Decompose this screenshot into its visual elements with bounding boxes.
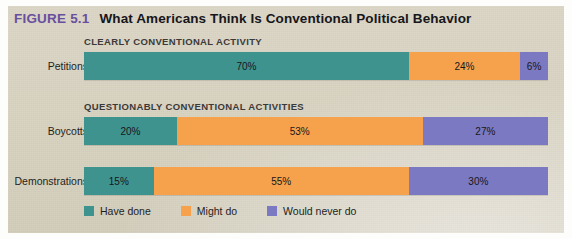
bar-value-label: 55% [271, 176, 291, 187]
stacked-bar-demonstrations: 15% 55% 30% [84, 167, 548, 195]
bar-segment-have-done[interactable]: 70% [84, 52, 409, 80]
table-row: Demonstrations 15% 55% 30% [0, 167, 556, 195]
legend-label: Might do [197, 205, 237, 217]
section-header-questionably-conventional: QUESTIONABLY CONVENTIONAL ACTIVITIES [84, 101, 304, 112]
legend-item-would-never-do[interactable]: Would never do [267, 205, 356, 217]
row-label-boycotts: Boycotts [48, 117, 88, 145]
legend-label: Would never do [283, 205, 356, 217]
legend-swatch-icon [181, 206, 191, 216]
bar-value-label: 15% [109, 176, 129, 187]
table-row: Petitions 70% 24% 6% [0, 52, 556, 80]
bar-segment-have-done[interactable]: 15% [84, 167, 154, 195]
bar-value-label: 6% [527, 61, 541, 72]
figure-container: FIGURE 5.1 What Americans Think Is Conve… [0, 0, 572, 239]
chart-legend: Have done Might do Would never do [84, 203, 356, 219]
bar-segment-might-do[interactable]: 55% [154, 167, 409, 195]
legend-item-might-do[interactable]: Might do [181, 205, 237, 217]
table-row: Boycotts 20% 53% 27% [0, 117, 556, 145]
bar-value-label: 53% [290, 126, 310, 137]
bar-segment-would-never-do[interactable]: 27% [423, 117, 548, 145]
row-label-petitions: Petitions [48, 52, 88, 80]
section-header-clearly-conventional: CLEARLY CONVENTIONAL ACTIVITY [84, 36, 262, 47]
bar-segment-might-do[interactable]: 53% [177, 117, 423, 145]
bar-value-label: 30% [468, 176, 488, 187]
legend-swatch-icon [84, 206, 94, 216]
figure-number: FIGURE 5.1 [14, 11, 90, 26]
bar-value-label: 20% [120, 126, 140, 137]
stacked-bar-petitions: 70% 24% 6% [84, 52, 548, 80]
page-title: What Americans Think Is Conventional Pol… [100, 11, 472, 26]
bar-segment-have-done[interactable]: 20% [84, 117, 177, 145]
bar-value-label: 70% [236, 61, 256, 72]
bar-segment-would-never-do[interactable]: 6% [520, 52, 548, 80]
figure-title-row: FIGURE 5.1 What Americans Think Is Conve… [14, 11, 471, 31]
bar-value-label: 24% [454, 61, 474, 72]
row-label-demonstrations: Demonstrations [14, 167, 88, 195]
bar-value-label: 27% [475, 126, 495, 137]
legend-label: Have done [100, 205, 151, 217]
legend-item-have-done[interactable]: Have done [84, 205, 151, 217]
bar-segment-might-do[interactable]: 24% [409, 52, 520, 80]
stacked-bar-boycotts: 20% 53% 27% [84, 117, 548, 145]
legend-swatch-icon [267, 206, 277, 216]
bar-segment-would-never-do[interactable]: 30% [409, 167, 548, 195]
